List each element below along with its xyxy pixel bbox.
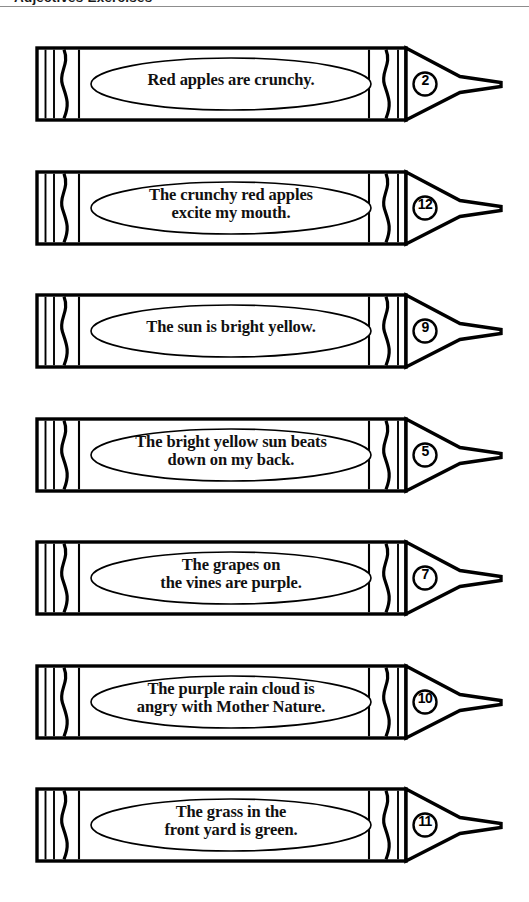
crayon-number-badge <box>414 196 437 219</box>
crayon-label-ellipse <box>91 182 371 234</box>
crayon-label-ellipse <box>91 799 371 851</box>
crayon-item-5[interactable]: The bright yellow sun beats down on my b… <box>0 411 529 503</box>
crayon-item-9[interactable]: The sun is bright yellow. 9 <box>0 287 529 379</box>
crayon-number-badge <box>414 567 437 590</box>
crayon-item-10[interactable]: The purple rain cloud is angry with Moth… <box>0 658 529 750</box>
crayon-number-badge <box>414 320 437 343</box>
crayon-graphic <box>0 411 529 503</box>
crayon-graphic <box>0 781 529 873</box>
crayon-list: Red apples are crunchy. 2 <box>0 0 529 902</box>
crayon-number-badge <box>414 814 437 837</box>
crayon-graphic <box>0 287 529 379</box>
crayon-graphic <box>0 164 529 256</box>
crayon-graphic <box>0 658 529 750</box>
crayon-label-ellipse <box>91 429 371 481</box>
crayon-graphic <box>0 40 529 132</box>
crayon-label-ellipse <box>91 676 371 728</box>
crayon-label-ellipse <box>91 58 371 110</box>
crayon-item-7[interactable]: The grapes on the vines are purple. 7 <box>0 534 529 626</box>
crayon-graphic <box>0 534 529 626</box>
crayon-item-12[interactable]: The crunchy red apples excite my mouth. … <box>0 164 529 256</box>
crayon-label-ellipse <box>91 305 371 357</box>
crayon-number-badge <box>414 690 437 713</box>
crayon-number-badge <box>414 443 437 466</box>
crayon-item-2[interactable]: Red apples are crunchy. 2 <box>0 40 529 132</box>
crayon-label-ellipse <box>91 552 371 604</box>
crayon-item-11[interactable]: The grass in the front yard is green. 11 <box>0 781 529 873</box>
crayon-number-badge <box>414 73 437 96</box>
